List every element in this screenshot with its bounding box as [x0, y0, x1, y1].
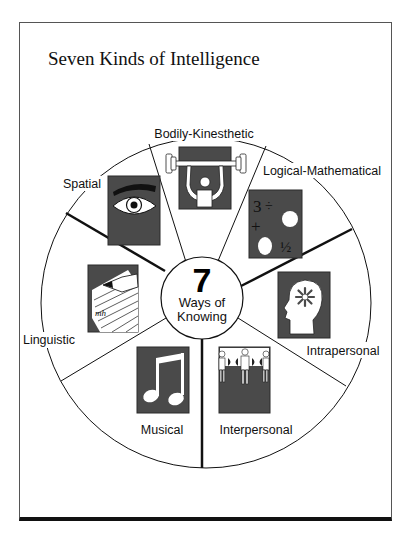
music-note-icon: [137, 347, 189, 413]
label-musical: Musical: [141, 423, 183, 437]
svg-text:mh: mh: [95, 308, 106, 318]
label-interpersonal: Interpersonal: [220, 423, 293, 437]
center-line2: Knowing: [177, 309, 227, 324]
people-holding-hands-icon: [219, 347, 270, 413]
center-line1: Ways of: [179, 295, 226, 310]
label-linguistic: Linguistic: [23, 333, 75, 347]
eye-icon: [108, 176, 160, 245]
center-hub: 7 Ways of Knowing: [161, 257, 243, 339]
weightlifter-icon: [166, 147, 246, 209]
svg-text:3: 3: [253, 197, 262, 216]
svg-text:½: ½: [280, 239, 291, 255]
center-number: 7: [193, 261, 212, 299]
label-spatial: Spatial: [63, 177, 101, 191]
head-starburst-icon: [278, 272, 330, 338]
intelligence-wheel: 7 Ways of Knowing Bodily-Kinesthetic Log…: [0, 0, 409, 538]
label-bodily-kinesthetic: Bodily-Kinesthetic: [154, 127, 253, 141]
pencil-paper-icon: mh: [88, 265, 138, 332]
svg-text:+: +: [251, 217, 261, 236]
svg-text:÷: ÷: [265, 199, 273, 214]
math-symbols-icon: 3 ÷ + ½: [249, 190, 302, 258]
label-logical-mathematical: Logical-Mathematical: [263, 164, 381, 178]
label-intrapersonal: Intrapersonal: [307, 344, 380, 358]
